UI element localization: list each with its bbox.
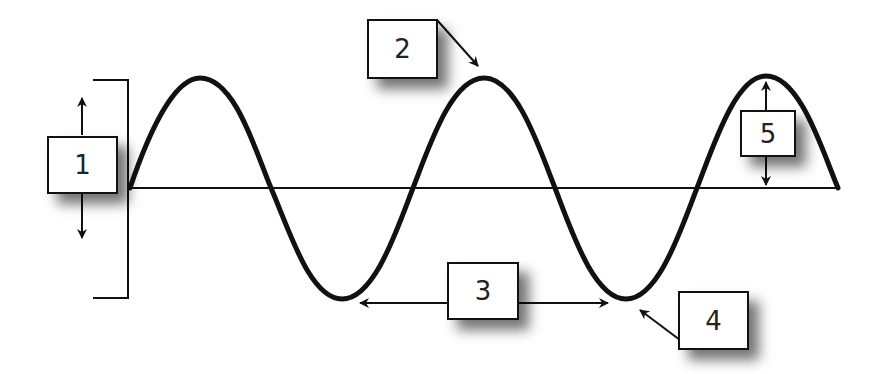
- label-box-4: 4: [678, 291, 749, 350]
- wave-diagram: [0, 0, 886, 374]
- label-box-5: 5: [740, 110, 796, 157]
- crest-arrow: [437, 20, 478, 66]
- label-4-text: 4: [705, 306, 722, 336]
- label-box-2: 2: [367, 19, 438, 79]
- label-box-3: 3: [447, 262, 519, 320]
- label-1-text: 1: [74, 150, 91, 180]
- label-5-text: 5: [760, 119, 777, 149]
- label-2-text: 2: [394, 34, 411, 64]
- label-3-text: 3: [475, 276, 492, 306]
- trough-arrow: [640, 310, 680, 340]
- label-box-1: 1: [47, 136, 118, 194]
